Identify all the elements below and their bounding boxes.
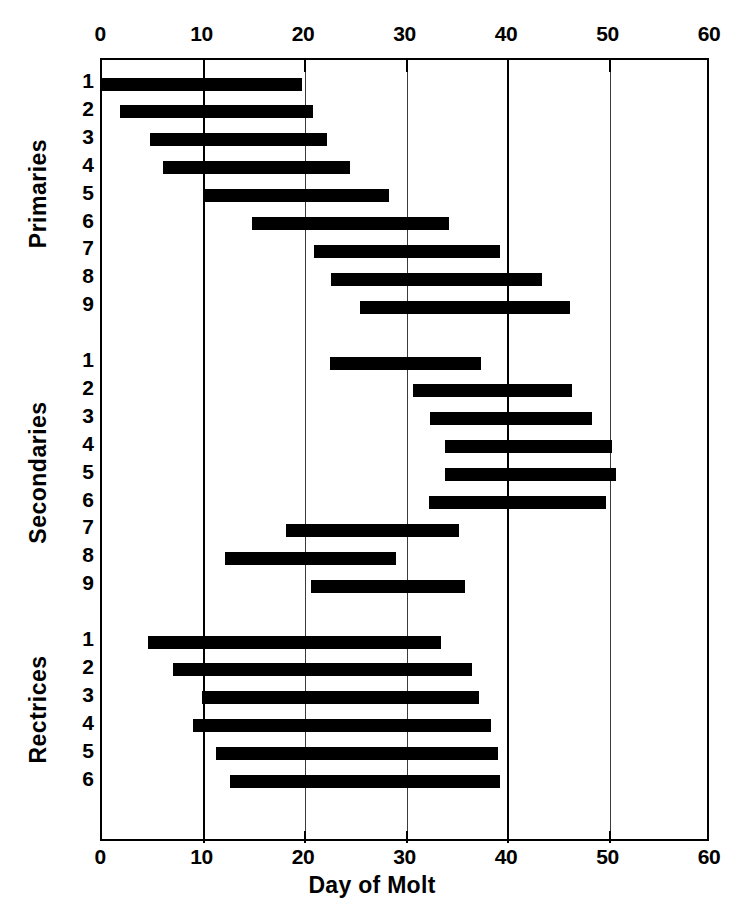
bar-primaries-8 (331, 273, 542, 286)
bar-rectrices-1 (148, 636, 441, 649)
group-label-primaries: Primaries (25, 93, 52, 293)
y-tick-label-secondaries-7: 7 (66, 515, 94, 539)
y-tick-label-rectrices-5: 5 (66, 739, 94, 763)
tick-mark-top-20 (304, 60, 306, 72)
y-tick-label-rectrices-1: 1 (66, 627, 94, 651)
tick-mark-top-50 (609, 60, 611, 72)
bar-primaries-9 (360, 301, 570, 314)
tick-mark-bottom-40 (507, 831, 509, 843)
tick-mark-top-40 (507, 60, 509, 72)
x-tick-label-40: 40 (476, 22, 536, 46)
y-tick-label-primaries-7: 7 (66, 236, 94, 260)
y-tick-label-primaries-1: 1 (66, 69, 94, 93)
bar-secondaries-7 (286, 524, 460, 537)
y-tick-label-rectrices-3: 3 (66, 683, 94, 707)
x-tick-label-10: 10 (172, 22, 232, 46)
bar-primaries-4 (163, 161, 350, 174)
bar-secondaries-6 (429, 496, 607, 509)
y-tick-label-primaries-9: 9 (66, 292, 94, 316)
y-tick-label-secondaries-9: 9 (66, 571, 94, 595)
tick-mark-bottom-50 (609, 831, 611, 843)
tick-mark-bottom-10 (203, 831, 205, 843)
y-tick-label-primaries-5: 5 (66, 181, 94, 205)
bar-secondaries-1 (330, 357, 480, 370)
group-label-secondaries: Secondaries (25, 372, 52, 572)
x-tick-label-60: 60 (679, 22, 739, 46)
x-tick-label-40: 40 (476, 845, 536, 869)
group-label-rectrices: Rectrices (25, 609, 52, 809)
x-tick-label-10: 10 (172, 845, 232, 869)
bar-secondaries-5 (445, 468, 616, 481)
bar-rectrices-4 (193, 719, 490, 732)
x-tick-label-20: 20 (273, 22, 333, 46)
y-tick-label-primaries-2: 2 (66, 97, 94, 121)
y-tick-label-secondaries-5: 5 (66, 460, 94, 484)
bar-primaries-3 (150, 133, 328, 146)
bar-rectrices-6 (230, 775, 500, 788)
y-tick-label-secondaries-8: 8 (66, 543, 94, 567)
x-tick-label-50: 50 (578, 22, 638, 46)
y-tick-label-primaries-3: 3 (66, 125, 94, 149)
x-tick-label-30: 30 (375, 22, 435, 46)
x-tick-label-0: 0 (70, 22, 130, 46)
y-tick-label-secondaries-6: 6 (66, 488, 94, 512)
x-tick-label-0: 0 (70, 845, 130, 869)
bar-rectrices-5 (216, 747, 498, 760)
x-tick-label-20: 20 (273, 845, 333, 869)
bar-secondaries-3 (430, 412, 592, 425)
y-tick-label-secondaries-1: 1 (66, 348, 94, 372)
bar-rectrices-3 (202, 691, 478, 704)
bar-primaries-1 (102, 78, 302, 91)
bar-rectrices-2 (173, 663, 472, 676)
y-tick-label-rectrices-4: 4 (66, 711, 94, 735)
bar-secondaries-4 (445, 440, 611, 453)
y-tick-label-secondaries-2: 2 (66, 376, 94, 400)
bar-secondaries-2 (413, 384, 572, 397)
bar-primaries-2 (120, 105, 313, 118)
plot-area (100, 58, 709, 841)
molt-gantt-chart: 0102030405060 123456789123456789123456 P… (0, 0, 744, 917)
tick-mark-bottom-30 (406, 831, 408, 843)
y-tick-label-secondaries-3: 3 (66, 404, 94, 428)
bar-secondaries-9 (311, 580, 465, 593)
bar-secondaries-8 (225, 552, 397, 565)
x-tick-label-30: 30 (375, 845, 435, 869)
y-tick-label-secondaries-4: 4 (66, 432, 94, 456)
y-tick-label-rectrices-2: 2 (66, 655, 94, 679)
tick-mark-top-10 (203, 60, 205, 72)
y-tick-label-primaries-8: 8 (66, 264, 94, 288)
x-tick-label-50: 50 (578, 845, 638, 869)
y-tick-label-rectrices-6: 6 (66, 767, 94, 791)
bar-primaries-6 (252, 217, 449, 230)
bar-primaries-7 (314, 245, 500, 258)
y-axis-tick-labels: 123456789123456789123456 (58, 58, 94, 841)
tick-mark-bottom-20 (304, 831, 306, 843)
y-tick-label-primaries-4: 4 (66, 153, 94, 177)
bar-primaries-5 (204, 189, 390, 202)
x-axis-title: Day of Molt (0, 872, 744, 899)
x-tick-label-60: 60 (679, 845, 739, 869)
tick-mark-top-30 (406, 60, 408, 72)
y-tick-label-primaries-6: 6 (66, 209, 94, 233)
